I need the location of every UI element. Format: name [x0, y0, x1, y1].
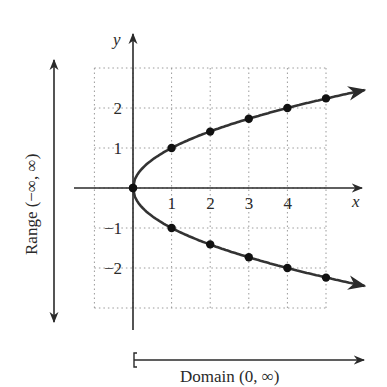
- data-point: [245, 253, 253, 261]
- domain-label: Domain (0, ∞): [180, 367, 279, 386]
- data-point: [283, 264, 291, 272]
- y-tick-label: −2: [104, 259, 122, 278]
- x-tick-label: 4: [283, 194, 292, 213]
- x-tick-label: 1: [168, 194, 177, 213]
- data-point: [167, 144, 175, 152]
- data-point: [283, 104, 291, 112]
- range-label: Range (−∞, ∞): [22, 154, 41, 255]
- data-point: [322, 273, 330, 281]
- x-axis-label: x: [351, 192, 360, 211]
- x-tick-label: 2: [206, 194, 215, 213]
- graph-canvas: 123421−1−2 x y Range (−∞, ∞) Domain (0, …: [0, 0, 387, 387]
- data-point: [322, 94, 330, 102]
- y-axis-label: y: [111, 30, 121, 49]
- axes: [74, 34, 362, 330]
- data-point: [129, 184, 137, 192]
- data-point: [245, 115, 253, 123]
- x-tick-label: 3: [245, 194, 254, 213]
- data-point: [167, 224, 175, 232]
- data-point: [206, 127, 214, 135]
- y-tick-label: 1: [114, 139, 123, 158]
- y-tick-label: 2: [114, 99, 123, 118]
- data-point: [206, 240, 214, 248]
- y-tick-label: −1: [104, 219, 122, 238]
